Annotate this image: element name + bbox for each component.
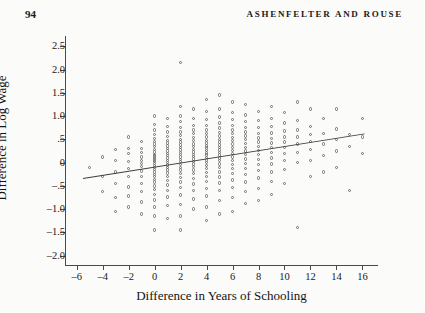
scatter-point [283,121,286,124]
y-axis-title: Difference in Log Wage [0,0,10,308]
scatter-point [101,155,104,158]
y-tick-label: –1.0 [25,204,65,214]
scatter-point [270,137,273,140]
scatter-point [257,199,260,202]
x-tick-label: 16 [345,271,379,282]
scatter-point [218,189,221,192]
scatter-point [270,170,273,173]
scatter-point [127,185,130,188]
scatter-point [322,132,325,135]
scatter-point [257,110,260,113]
scatter-point [257,153,260,156]
y-tick-label: 2.5 [25,41,65,51]
scatter-point [166,217,169,220]
scatter-point [166,175,169,178]
y-tick-label: 2.0 [25,65,65,75]
scatter-point [270,141,273,144]
scatter-point [244,167,247,170]
scatter-point [114,210,117,213]
scatter-point [140,182,143,185]
scatter-point [270,125,273,128]
scatter-point [205,98,208,101]
x-tick [129,265,130,270]
scatter-point [283,182,286,185]
scatter-point [166,183,169,186]
y-tick-label: .5 [25,134,65,144]
scatter-point [257,140,260,143]
scatter-point [140,212,143,215]
scatter-point [244,190,247,193]
scatter-point [218,107,221,110]
scatter-point [244,138,247,141]
scatter-point [244,120,247,123]
scatter-point [140,175,143,178]
scatter-point [140,190,143,193]
scatter-point [244,173,247,176]
scatter-point [101,190,104,193]
scatter-point [127,175,130,178]
running-head: ASHENFELTER AND ROUSE [247,9,403,19]
scatter-point [283,168,286,171]
scatter-point [205,118,208,121]
scatter-point [127,194,130,197]
y-tick-label: 0 [25,158,65,168]
scatter-point [257,169,260,172]
scatter-point [231,132,234,135]
scatter-point [244,162,247,165]
scatter-point [192,207,195,210]
scatter-point [231,167,234,170]
scatter-point [244,180,247,183]
scatter-point [231,100,234,103]
scatter-point [309,125,312,128]
y-tick-label: 1.5 [25,88,65,98]
scatter-point [179,186,182,189]
scatter-point [309,175,312,178]
scatter-point [179,193,182,196]
scatter-point [205,205,208,208]
page-number: 94 [25,8,36,20]
scatter-point [283,135,286,138]
scatter-point [205,167,208,170]
figure-scatter-plot: Difference in Log Wage –2.0–1.5–1.0–.50.… [0,26,425,313]
scatter-point [244,142,247,145]
scatter-point [270,105,273,108]
scatter-point [153,193,156,196]
scatter-point [205,124,208,127]
scatter-point [166,204,169,207]
plot-data-area [65,36,378,265]
scatter-point [231,186,234,189]
scatter-point [348,145,351,148]
scatter-point [270,193,273,196]
scatter-point [127,135,130,138]
scatter-point [153,123,156,126]
x-tick [155,265,156,270]
x-tick [207,265,208,270]
x-tick [336,265,337,270]
page-header: 94 ASHENFELTER AND ROUSE [0,0,425,26]
scatter-point [322,170,325,173]
scatter-point [205,175,208,178]
scatter-point [179,126,182,129]
y-tick-label: –.5 [25,181,65,191]
scatter-point [205,219,208,222]
scatter-point [257,145,260,148]
scatter-point [283,159,286,162]
scatter-point [335,149,338,152]
plot-frame: –2.0–1.5–1.0–.50.51.01.52.02.5 –6–4–2024… [65,36,378,265]
scatter-point [296,100,299,103]
scatter-point [218,121,221,124]
y-tick-label: –2.0 [25,251,65,261]
scatter-point [218,166,221,169]
scatter-point [166,125,169,128]
scatter-point [296,119,299,122]
scatter-point [244,103,247,106]
scatter-point [270,151,273,154]
scatter-point [140,147,143,150]
scatter-point [166,195,169,198]
scatter-point [244,126,247,129]
scatter-point [127,147,130,150]
scatter-point [153,228,156,231]
scatter-point [244,157,247,160]
y-tick-label: 1.0 [25,111,65,121]
scatter-point [192,182,195,185]
